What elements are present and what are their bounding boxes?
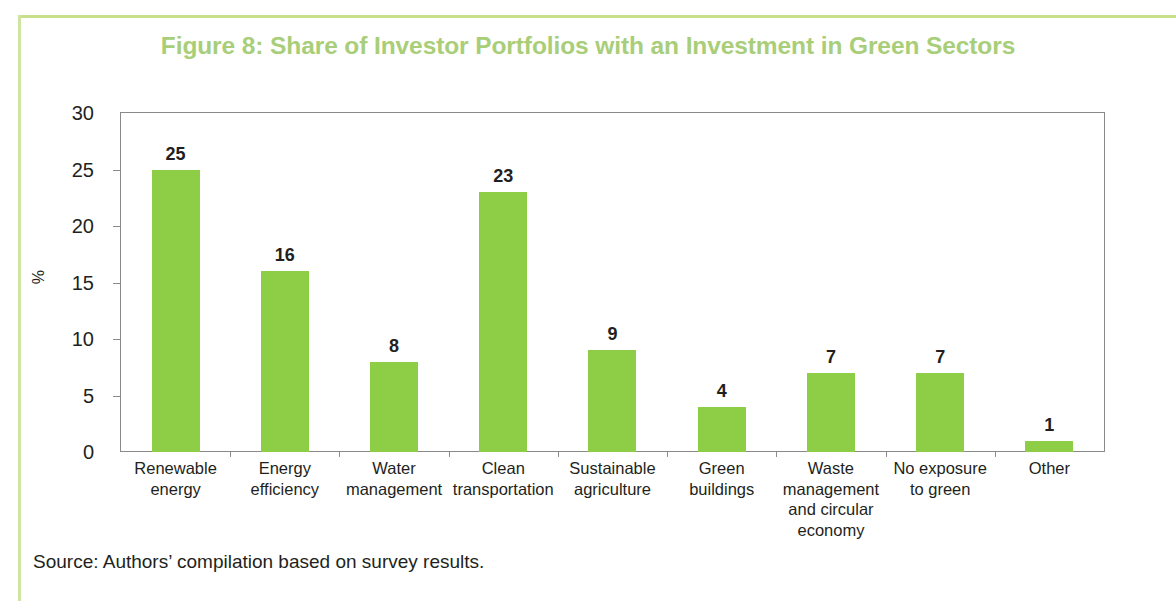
bar-value-label: 4	[717, 381, 727, 402]
x-axis-category-label: Other	[995, 458, 1104, 479]
x-axis-category-label: Sustainableagriculture	[558, 458, 667, 499]
bar	[152, 170, 200, 453]
source-note: Source: Authors’ compilation based on su…	[33, 551, 484, 573]
bar	[370, 362, 418, 452]
bar	[1025, 441, 1073, 452]
y-axis-tick-mark	[113, 170, 121, 171]
x-axis-tick-mark	[558, 452, 559, 457]
bar-value-label: 8	[389, 336, 399, 357]
bar	[479, 192, 527, 452]
bar	[916, 373, 964, 452]
bar-slot: 9	[558, 113, 667, 452]
bar	[261, 271, 309, 452]
x-axis-category-label: Greenbuildings	[667, 458, 776, 499]
y-axis-tick-label: 0	[48, 442, 94, 462]
bar-value-label: 23	[493, 166, 513, 187]
x-axis-category-label: Wastemanagementand circulareconomy	[776, 458, 885, 541]
bar-slot: 7	[886, 113, 995, 452]
y-axis-tick-label: 30	[48, 103, 94, 123]
bar	[698, 407, 746, 452]
x-axis-tick-mark	[667, 452, 668, 457]
bar	[807, 373, 855, 452]
bar-value-label: 9	[607, 324, 617, 345]
bar-slot: 16	[230, 113, 339, 452]
x-axis-tick-mark	[886, 452, 887, 457]
bar-value-label: 16	[275, 245, 295, 266]
x-axis-category-label: Renewableenergy	[121, 458, 230, 499]
bar-value-label: 25	[166, 144, 186, 165]
y-axis-tick-label: 20	[48, 216, 94, 236]
bar-slot: 4	[667, 113, 776, 452]
bar-value-label: 7	[826, 347, 836, 368]
y-axis-tick-mark	[113, 339, 121, 340]
x-axis-tick-mark	[995, 452, 996, 457]
y-axis-tick-label: 5	[48, 386, 94, 406]
x-axis-category-label: Energyefficiency	[230, 458, 339, 499]
x-axis-category-label: Cleantransportation	[449, 458, 558, 499]
bar-slot: 23	[449, 113, 558, 452]
figure-title: Figure 8: Share of Investor Portfolios w…	[0, 32, 1176, 60]
x-axis-category-label: No exposureto green	[886, 458, 995, 499]
bar-slot: 25	[121, 113, 230, 452]
bar-value-label: 7	[935, 347, 945, 368]
x-axis-tick-mark	[776, 452, 777, 457]
y-axis-tick-mark	[113, 226, 121, 227]
bar-slot: 8	[339, 113, 448, 452]
y-axis-label: %	[30, 262, 48, 292]
bar-slot: 1	[995, 113, 1104, 452]
bar-plot-area: 251682394771	[121, 113, 1104, 452]
page-top-rule	[18, 15, 1176, 18]
x-axis-tick-mark	[339, 452, 340, 457]
y-axis-tick-label: 15	[48, 273, 94, 293]
y-axis-tick-mark	[113, 396, 121, 397]
page-left-rule	[18, 15, 21, 601]
bar	[588, 350, 636, 452]
y-axis-tick-label: 25	[48, 160, 94, 180]
x-axis-tick-mark	[230, 452, 231, 457]
x-axis-category-label: Watermanagement	[339, 458, 448, 499]
y-axis-tick-label: 10	[48, 329, 94, 349]
bar-slot: 7	[776, 113, 885, 452]
bar-value-label: 1	[1044, 415, 1054, 436]
x-axis-tick-mark	[449, 452, 450, 457]
y-axis-tick-mark	[113, 283, 121, 284]
x-axis-category-labels: RenewableenergyEnergyefficiencyWatermana…	[121, 458, 1104, 558]
figure-page: Figure 8: Share of Investor Portfolios w…	[0, 0, 1176, 601]
